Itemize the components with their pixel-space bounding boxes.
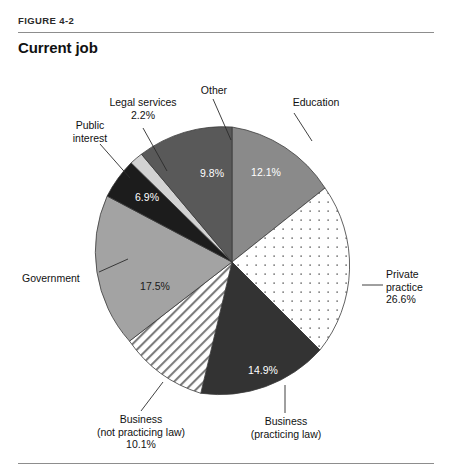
callout-label-business-practicing-law: Business (practicing law) (227, 415, 345, 440)
callout-legal-services-line1: Legal services (88, 96, 198, 109)
callout-public-interest-line2: interest (54, 132, 126, 145)
value-label-government: 17.5% (140, 280, 170, 292)
pie-chart: 12.1% 9.8% 6.9% 17.5% 14.9% (0, 0, 452, 476)
callout-private-practice-line2: practice (386, 281, 444, 294)
callout-private-practice-line1: Private (386, 268, 444, 281)
callout-label-business-not-practicing-law: Business (not practicing law) 10.1% (62, 413, 220, 451)
callout-label-private-practice: Private practice 26.6% (386, 268, 444, 306)
value-label-public-interest: 6.9% (135, 191, 159, 203)
callout-business-np-line1: Business (62, 413, 220, 426)
callout-other-text: Other (201, 84, 227, 96)
callout-label-public-interest: Public interest (54, 119, 126, 144)
callout-label-legal-services: Legal services 2.2% (88, 96, 198, 121)
leader-line-business-not-practicing-law (141, 382, 163, 411)
leader-line-public-interest (100, 144, 130, 178)
callout-label-other: Other (186, 84, 242, 97)
figure-container: FIGURE 4-2 Current job (0, 0, 452, 476)
callout-label-government: Government (22, 272, 100, 285)
callout-label-education: Education (283, 96, 349, 109)
callout-government-text: Government (22, 272, 80, 284)
value-label-business-practicing-law: 14.9% (248, 364, 278, 376)
callout-private-practice-line3: 26.6% (386, 293, 444, 306)
footer-divider (18, 463, 434, 464)
callout-business-p-line2: (practicing law) (227, 428, 345, 441)
callout-business-np-line3: 10.1% (62, 438, 220, 451)
callout-business-np-line2: (not practicing law) (62, 426, 220, 439)
callout-education-text: Education (293, 96, 340, 108)
leader-line-education (294, 113, 312, 141)
value-label-education: 12.1% (251, 166, 281, 178)
callout-public-interest-line1: Public (54, 119, 126, 132)
callout-business-p-line1: Business (227, 415, 345, 428)
value-label-other: 9.8% (200, 167, 224, 179)
